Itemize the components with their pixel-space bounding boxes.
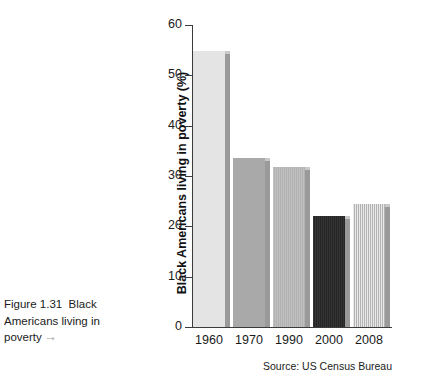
bar-2000	[313, 216, 345, 327]
y-axis-tick-label: 30	[140, 168, 182, 182]
bar-top-shadow	[225, 51, 230, 54]
y-axis-tick	[185, 75, 192, 76]
bar-1990	[273, 167, 305, 327]
bar-top-shadow	[385, 204, 390, 207]
bar-shadow	[225, 54, 230, 327]
bar-1960	[193, 51, 225, 327]
bar-chart: Black Americans living in poverty (%) 01…	[140, 8, 421, 388]
figure-caption-line-1: Figure 1.31 Black	[4, 296, 144, 313]
bar-shadow	[385, 207, 390, 327]
bar-group-1990	[273, 25, 313, 327]
y-axis-tick	[185, 226, 192, 227]
figure-caption-line-3: poverty→	[4, 329, 144, 346]
y-axis-tick-label: 20	[140, 218, 182, 232]
bar-group-2008	[353, 25, 393, 327]
y-axis-tick-label: 40	[140, 118, 182, 132]
y-axis-tick	[185, 277, 192, 278]
bar-shadow	[305, 170, 310, 327]
y-axis-tick	[185, 176, 192, 177]
y-axis-tick	[185, 126, 192, 127]
bar-2008	[353, 204, 385, 327]
y-axis-tick	[185, 25, 192, 26]
bar-top-shadow	[265, 158, 270, 161]
bar-top-shadow	[305, 167, 310, 170]
bar-1970	[233, 158, 265, 327]
y-axis-tick-label: 0	[140, 319, 182, 333]
bar-shadow	[265, 161, 270, 327]
x-axis-label-2008: 2008	[345, 333, 393, 347]
y-axis-tick	[185, 327, 192, 328]
figure-caption-line-3-text: poverty	[4, 331, 42, 343]
figure-caption: Figure 1.31 Black Americans living in po…	[4, 296, 144, 346]
bar-group-1960	[193, 25, 233, 327]
bar-group-2000	[313, 25, 353, 327]
bar-shadow	[345, 219, 350, 327]
figure-caption-line-2: Americans living in	[4, 313, 144, 330]
bar-top-shadow	[345, 216, 350, 219]
bar-group-1970	[233, 25, 273, 327]
y-axis-tick-label: 10	[140, 269, 182, 283]
y-axis-tick-label: 50	[140, 67, 182, 81]
arrow-right-icon: →	[42, 329, 57, 344]
y-axis-tick-label: 60	[140, 17, 182, 31]
x-axis-line	[192, 327, 392, 328]
plot-area	[192, 25, 390, 327]
source-note: Source: US Census Bureau	[192, 360, 392, 372]
